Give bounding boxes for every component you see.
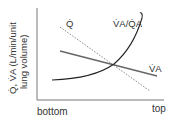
va-label: V̇A <box>149 63 162 74</box>
va-line <box>60 51 157 76</box>
x-label-bottom: bottom <box>37 106 68 117</box>
y-axis-label-line1: Q̇, V̇A (L/min/unit <box>7 22 18 94</box>
q-label: Q̇ <box>66 18 73 29</box>
y-axis-label-line2: lung volume) <box>18 35 29 89</box>
q-line <box>60 27 150 91</box>
x-label-top: top <box>152 103 166 114</box>
chart: Q̇, V̇A (L/min/unit lung volume) Q̇ V̇A/… <box>0 0 175 124</box>
vaqa-label: V̇A/Q̇A <box>113 18 143 29</box>
